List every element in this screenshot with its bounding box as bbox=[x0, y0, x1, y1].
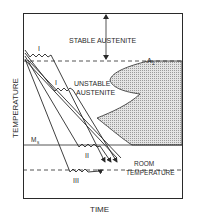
path-1-lower-label: I bbox=[55, 79, 57, 86]
temperature-label: TEMPERATURE bbox=[126, 169, 175, 176]
y-axis-label: TEMPERATURE bbox=[11, 78, 20, 138]
path-1-lower bbox=[25, 53, 117, 162]
unstable-label: UNSTABLE bbox=[74, 80, 111, 87]
ttt-diagram: STABLE AUSTENITE UNSTABLE AUSTENITE A 1 … bbox=[0, 0, 197, 220]
path-1-upper-label: I bbox=[38, 45, 40, 52]
cooling-paths bbox=[25, 50, 121, 172]
path-3-label: III bbox=[73, 177, 79, 184]
ms-label: M bbox=[31, 136, 36, 143]
stable-austenite-label: STABLE AUSTENITE bbox=[69, 37, 136, 44]
x-axis-label: TIME bbox=[90, 205, 109, 214]
austenite-label: AUSTENITE bbox=[76, 89, 116, 96]
room-label: ROOM bbox=[134, 160, 154, 167]
path-2-label: II bbox=[85, 152, 89, 159]
ms-subscript: s bbox=[37, 140, 40, 145]
path-2 bbox=[25, 56, 111, 162]
transformation-region bbox=[97, 61, 182, 145]
